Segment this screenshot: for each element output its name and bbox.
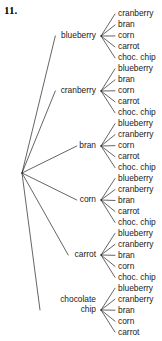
tree-leaf-blueberry: blueberry bbox=[118, 64, 153, 73]
tree-leaf-blueberry: blueberry bbox=[118, 119, 153, 128]
edge-blueberry-to-choc--chip bbox=[101, 36, 115, 58]
edge-chocolate-chip-to-carrot bbox=[101, 310, 115, 332]
tree-leaf-choc--chip: choc. chip bbox=[118, 273, 156, 282]
edge-corn-to-carrot bbox=[101, 200, 115, 211]
tree-leaf-choc--chip: choc. chip bbox=[118, 53, 156, 62]
edge-bran-to-blueberry bbox=[101, 124, 115, 146]
tree-leaf-carrot: carrot bbox=[118, 328, 139, 337]
edge-root-to-carrot bbox=[22, 173, 68, 255]
tree-leaf-carrot: carrot bbox=[118, 207, 139, 216]
tree-leaf-cranberry: cranberry bbox=[118, 295, 153, 304]
edge-root-to-bran bbox=[22, 146, 77, 173]
tree-leaf-bran: bran bbox=[118, 306, 135, 315]
edge-carrot-to-choc--chip bbox=[101, 255, 115, 277]
tree-leaf-choc--chip: choc. chip bbox=[118, 163, 156, 172]
edge-root-to-corn bbox=[22, 173, 77, 200]
edge-cranberry-to-choc--chip bbox=[101, 91, 115, 113]
tree-leaf-carrot: carrot bbox=[118, 152, 139, 161]
tree-leaf-carrot: carrot bbox=[118, 97, 139, 106]
tree-node-cranberry: cranberry bbox=[61, 86, 96, 96]
edge-cranberry-to-blueberry bbox=[101, 69, 115, 91]
tree-leaf-corn: corn bbox=[118, 31, 134, 40]
tree-leaf-bran: bran bbox=[118, 196, 135, 205]
edge-corn-to-blueberry bbox=[101, 179, 115, 200]
tree-leaf-carrot: carrot bbox=[118, 42, 139, 51]
tree-leaf-blueberry: blueberry bbox=[118, 229, 153, 238]
edge-bran-to-choc--chip bbox=[101, 146, 115, 168]
edge-blueberry-to-carrot bbox=[101, 36, 115, 47]
tree-diagram-page: 11. blueberrycranberrybrancorncarrotchoc… bbox=[0, 0, 162, 341]
edge-root-to-chocolate-chip bbox=[22, 173, 40, 310]
tree-leaf-choc--chip: choc. chip bbox=[118, 218, 156, 227]
edge-carrot-to-blueberry bbox=[101, 233, 115, 255]
edge-corn-to-cranberry bbox=[101, 190, 115, 200]
edge-blueberry-to-bran bbox=[101, 25, 115, 36]
edge-blueberry-to-cranberry bbox=[101, 14, 115, 36]
tree-leaf-corn: corn bbox=[118, 262, 134, 271]
tree-leaf-corn: corn bbox=[118, 86, 134, 95]
edge-bran-to-cranberry bbox=[101, 135, 115, 146]
tree-leaf-cranberry: cranberry bbox=[118, 130, 153, 139]
tree-leaf-bran: bran bbox=[118, 20, 135, 29]
tree-leaf-cranberry: cranberry bbox=[118, 9, 153, 18]
tree-leaf-bran: bran bbox=[118, 75, 135, 84]
tree-leaf-blueberry: blueberry bbox=[118, 174, 153, 183]
tree-leaf-corn: corn bbox=[118, 317, 134, 326]
tree-leaf-cranberry: cranberry bbox=[118, 240, 153, 249]
tree-leaf-corn: corn bbox=[118, 141, 134, 150]
edge-chocolate-chip-to-cranberry bbox=[101, 299, 115, 310]
edge-cranberry-to-bran bbox=[101, 80, 115, 91]
edge-cranberry-to-carrot bbox=[101, 91, 115, 102]
tree-node-carrot: carrot bbox=[75, 250, 96, 260]
tree-leaf-bran: bran bbox=[118, 251, 135, 260]
edge-carrot-to-corn bbox=[101, 255, 115, 266]
tree-node-chocolate-chip: chocolate chip bbox=[44, 295, 96, 315]
edge-root-to-blueberry bbox=[22, 36, 55, 173]
tree-leaf-blueberry: blueberry bbox=[118, 284, 153, 293]
edge-carrot-to-cranberry bbox=[101, 244, 115, 255]
edge-chocolate-chip-to-blueberry bbox=[101, 288, 115, 310]
tree-node-corn: corn bbox=[80, 195, 96, 205]
edge-corn-to-choc--chip bbox=[101, 200, 115, 222]
tree-leaf-cranberry: cranberry bbox=[118, 185, 153, 194]
tree-node-blueberry: blueberry bbox=[61, 31, 96, 41]
tree-edges bbox=[22, 14, 115, 332]
tree-node-bran: bran bbox=[79, 141, 96, 151]
edge-bran-to-carrot bbox=[101, 146, 115, 157]
tree-leaf-choc--chip: choc. chip bbox=[118, 108, 156, 117]
edge-chocolate-chip-to-corn bbox=[101, 310, 115, 321]
